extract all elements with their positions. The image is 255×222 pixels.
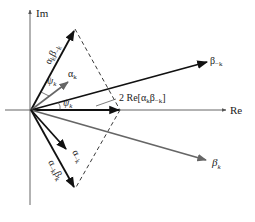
label-alpha-k: αk: [68, 68, 77, 81]
dashed-upper: [75, 29, 120, 110]
vector-alpha-minus-k-beta-k: [31, 110, 74, 187]
imag-axis-label: Im: [36, 7, 49, 19]
labels: αkβ−k ψk αk ψk β−k 2 Re[αkβ−k] βk α−k: [42, 42, 223, 184]
vector-beta-k: [31, 110, 206, 160]
label-two-re: 2 Re[αkβ−k]: [119, 92, 166, 105]
label-alpha-minus-k: α−k: [69, 148, 87, 166]
two-re-leader: [96, 99, 116, 106]
parallelogram-construction: [75, 29, 120, 189]
label-psi-upper: ψk: [47, 75, 57, 88]
phasor-diagram: Im Re αkβ−k ψk αk: [0, 0, 255, 222]
label-beta-minus-k: β−k: [210, 55, 223, 68]
real-axis-label: Re: [230, 104, 242, 116]
axes: Im Re: [5, 7, 242, 205]
label-beta-k: βk: [211, 156, 221, 171]
label-alpha-minus-k-beta-k: α−kβk: [44, 158, 66, 183]
psi-upper-arc: [41, 92, 49, 96]
